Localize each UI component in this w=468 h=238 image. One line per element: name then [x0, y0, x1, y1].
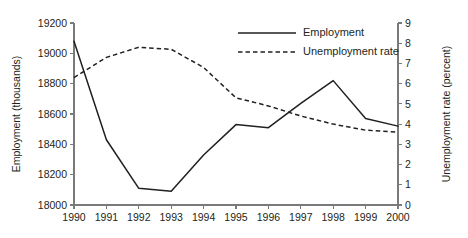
left-axis-tick-label: 19000	[38, 47, 67, 59]
legend-label: Employment	[303, 26, 364, 38]
right-axis-tick-label: 2	[405, 158, 411, 170]
series-line-employment	[74, 41, 398, 191]
series-lines	[74, 41, 398, 191]
right-axis-tick-label: 9	[405, 17, 411, 29]
right-axis-tick-label: 1	[405, 178, 411, 190]
right-axis-tick-label: 8	[405, 37, 411, 49]
x-axis-tick-label: 1990	[62, 211, 86, 223]
x-axis: 1990199119921993199419951996199719981999…	[62, 205, 410, 223]
left-axis-tick-label: 18800	[38, 77, 67, 89]
left-axis-tick-label: 19200	[38, 17, 67, 29]
legend-label: Unemployment rate	[303, 45, 399, 57]
right-axis-tick-label: 7	[405, 57, 411, 69]
y-axis-title: Employment (thousands)	[10, 56, 22, 173]
left-axis-tick-label: 18400	[38, 138, 67, 150]
right-axis-tick-label: 5	[405, 98, 411, 110]
x-axis-tick-label: 1996	[257, 211, 281, 223]
left-axis-tick-label: 18200	[38, 168, 67, 180]
y2-axis-title: Unemployment rate (percent)	[440, 46, 452, 183]
chart-container: 18000182001840018600188001900019200 0123…	[0, 0, 468, 238]
x-axis-tick-label: 1998	[322, 211, 346, 223]
right-axis: 0123456789	[398, 17, 411, 211]
left-axis: 18000182001840018600188001900019200	[38, 17, 74, 211]
x-axis-tick-label: 1994	[192, 211, 216, 223]
x-axis-tick-label: 2000	[386, 211, 410, 223]
right-axis-tick-label: 4	[405, 118, 411, 130]
right-axis-tick-label: 3	[405, 138, 411, 150]
x-axis-tick-label: 1993	[160, 211, 184, 223]
left-axis-tick-label: 18000	[38, 199, 67, 211]
left-axis-tick-label: 18600	[38, 108, 67, 120]
x-axis-tick-label: 1991	[95, 211, 119, 223]
right-axis-tick-label: 0	[405, 199, 411, 211]
series-line-unemployment-rate	[74, 47, 398, 132]
right-axis-tick-label: 6	[405, 77, 411, 89]
x-axis-tick-label: 1999	[354, 211, 378, 223]
chart-legend: EmploymentUnemployment rate	[238, 26, 399, 57]
x-axis-tick-label: 1997	[289, 211, 313, 223]
dual-axis-line-chart: 18000182001840018600188001900019200 0123…	[0, 0, 468, 238]
x-axis-tick-label: 1995	[224, 211, 248, 223]
x-axis-tick-label: 1992	[127, 211, 151, 223]
